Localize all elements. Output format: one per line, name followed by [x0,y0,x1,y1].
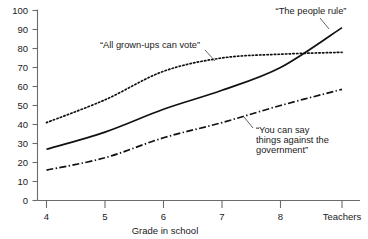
x-tick-label-6: 6 [161,211,166,222]
leader-line-people-rule [320,18,329,29]
annotation-all-grown-ups-can-vote: “All grown-ups can vote” [100,40,215,61]
line-chart: 0 10 20 30 40 50 60 70 80 90 100 4 5 6 7 [0,0,368,239]
annotation-label-say-line2: things against the [256,135,329,145]
x-tick-label-5: 5 [102,211,107,222]
annotation-the-people-rule: “The people rule” [276,6,347,29]
annotation-label-say-line3: government” [256,145,308,155]
x-axis-title: Grade in school [132,225,199,236]
series-line-all-grown-ups-can-vote [47,52,343,122]
x-axis-ticks [47,201,343,209]
x-axis-tick-labels: 4 5 6 7 8 Teachers [44,211,362,222]
y-axis-ticks [33,11,38,201]
annotation-say-things-against-government: “You can say things against the governme… [244,117,329,155]
y-tick-label-20: 20 [17,157,28,168]
y-tick-label-100: 100 [12,5,28,16]
annotation-label-say-line1: “You can say [256,125,310,135]
y-tick-label-10: 10 [17,176,28,187]
annotation-label-people-rule: “The people rule” [276,6,347,16]
leader-line-say [244,117,253,128]
y-tick-label-70: 70 [17,62,28,73]
y-tick-label-30: 30 [17,138,28,149]
axes-group [38,10,361,201]
y-axis-tick-labels: 0 10 20 30 40 50 60 70 80 90 100 [12,5,28,206]
y-tick-label-80: 80 [17,43,28,54]
x-tick-label-8: 8 [278,211,283,222]
chart-canvas: 0 10 20 30 40 50 60 70 80 90 100 4 5 6 7 [0,0,368,239]
y-tick-label-90: 90 [17,24,28,35]
y-tick-label-40: 40 [17,119,28,130]
x-tick-label-teachers: Teachers [323,211,362,222]
annotation-label-vote: “All grown-ups can vote” [100,40,200,50]
x-tick-label-7: 7 [219,211,224,222]
y-tick-label-60: 60 [17,81,28,92]
y-tick-label-0: 0 [23,195,28,206]
y-tick-label-50: 50 [17,100,28,111]
x-tick-label-4: 4 [44,211,49,222]
